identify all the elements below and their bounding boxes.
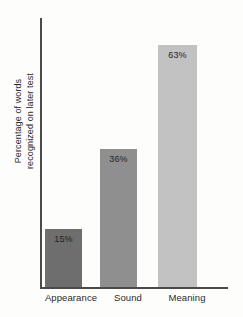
bar-appearance-fill: [45, 229, 82, 287]
plot-area: 15% 36% 63%: [42, 18, 228, 287]
x-axis-tick-labels: Appearance Sound Meaning: [40, 292, 230, 310]
bar-meaning-fill: [158, 45, 197, 287]
y-axis-title: Percentage of words recognized on later …: [8, 46, 40, 196]
y-axis-title-line-2: recognized on later test: [24, 73, 36, 169]
bar-appearance: 15%: [45, 229, 82, 287]
x-tick-label-meaning: Meaning: [152, 292, 222, 303]
y-axis-title-line-1: Percentage of words: [12, 79, 24, 163]
x-tick-label-sound: Sound: [102, 292, 154, 303]
bar-sound-fill: [100, 149, 137, 287]
x-axis-line: [40, 287, 228, 289]
bar-meaning: 63%: [158, 45, 197, 287]
bar-sound: 36%: [100, 149, 137, 287]
x-tick-label-appearance: Appearance: [37, 292, 105, 303]
bar-chart: Percentage of words recognized on later …: [0, 0, 243, 317]
